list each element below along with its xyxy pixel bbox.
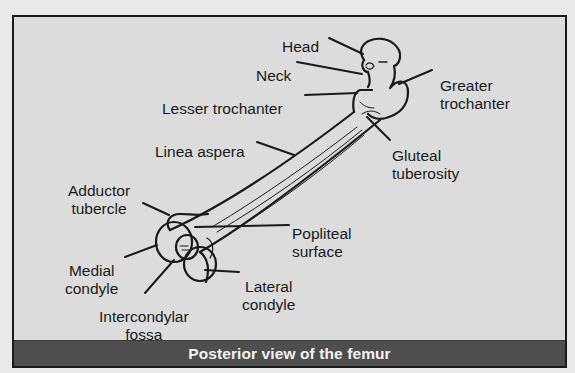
leader-lesser-trochanter — [305, 93, 357, 95]
label-gluteal-tuberosity-line-1: Gluteal — [392, 147, 459, 165]
label-intercondylar-fossa-line-1: Intercondylar — [99, 308, 189, 326]
caption-bar: Posterior view of the femur — [14, 340, 565, 366]
label-lateral-condyle: Lateral condyle — [242, 278, 295, 314]
label-linea-aspera: Linea aspera — [155, 143, 245, 161]
label-lesser-trochanter: Lesser trochanter — [162, 100, 283, 118]
label-gluteal-tuberosity: Gluteal tuberosity — [392, 147, 459, 183]
label-medial-condyle: Medial condyle — [65, 262, 118, 298]
leader-intercondylar-fossa — [145, 260, 174, 293]
label-head: Head — [282, 38, 319, 56]
leader-linea-aspera — [257, 142, 294, 155]
label-adductor-tubercle: Adductor tubercle — [68, 182, 130, 218]
label-medial-condyle-line-2: condyle — [65, 280, 118, 298]
leader-head — [329, 38, 363, 54]
label-greater-trochanter-line-2: trochanter — [440, 95, 510, 113]
label-gluteal-tuberosity-line-2: tuberosity — [392, 165, 459, 183]
leader-lateral-condyle — [205, 270, 239, 272]
label-popliteal-surface-line-2: surface — [292, 243, 351, 261]
label-neck: Neck — [256, 67, 291, 85]
leader-adductor-tubercle — [143, 203, 169, 215]
label-medial-condyle-line-1: Medial — [65, 262, 118, 280]
leader-greater-trochanter — [399, 70, 432, 84]
label-greater-trochanter: Greater trochanter — [440, 77, 510, 113]
label-intercondylar-fossa: Intercondylar fossa — [99, 308, 189, 344]
label-lateral-condyle-line-1: Lateral — [242, 278, 295, 296]
label-greater-trochanter-line-1: Greater — [440, 77, 510, 95]
label-popliteal-surface-line-1: Popliteal — [292, 225, 351, 243]
leader-neck — [297, 62, 362, 74]
label-adductor-tubercle-line-2: tubercle — [68, 200, 130, 218]
leader-medial-condyle — [125, 245, 157, 257]
femur-figure: Head Neck Lesser trochanter Greater troc… — [12, 15, 567, 368]
figure-caption: Posterior view of the femur — [188, 345, 391, 363]
leader-popliteal-surface — [195, 225, 289, 227]
label-adductor-tubercle-line-1: Adductor — [68, 182, 130, 200]
label-popliteal-surface: Popliteal surface — [292, 225, 351, 261]
label-lateral-condyle-line-2: condyle — [242, 296, 295, 314]
